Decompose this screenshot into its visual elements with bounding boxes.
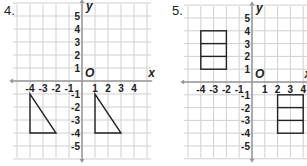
coordinate-grid: -4-3-2-1123454321-1-2-3-4-5Oyx: [0, 0, 155, 166]
origin-label: O: [255, 67, 265, 81]
x-tick-label: -2: [52, 83, 61, 94]
y-tick-label: 1: [74, 63, 80, 74]
x-tick-label: -3: [39, 83, 48, 94]
x-tick-label: 4: [300, 84, 306, 95]
coordinate-grid: -4-3-2-1123454321-1-2-3-4-5Oyx: [155, 0, 307, 166]
y-tick-label: -5: [241, 141, 250, 152]
x-tick-label: 4: [131, 83, 137, 94]
y-tick-label: -4: [241, 128, 250, 139]
origin-label: O: [85, 66, 95, 80]
y-tick-label: -1: [71, 89, 80, 100]
y-tick-label: 2: [244, 51, 250, 62]
y-tick-label: -5: [71, 141, 80, 152]
y-tick-label: 5: [74, 11, 80, 22]
x-tick-label: -2: [222, 84, 231, 95]
x-tick-label: 3: [118, 83, 124, 94]
x-tick-label: 1: [262, 84, 268, 95]
y-tick-label: 5: [244, 13, 250, 24]
y-tick-label: -1: [241, 90, 250, 101]
y-axis-arrow-icon: [80, 0, 85, 3]
y-tick-label: -4: [71, 128, 80, 139]
y-tick-label: 3: [74, 37, 80, 48]
y-tick-label: -2: [71, 102, 80, 113]
x-tick-label: -4: [26, 83, 35, 94]
y-tick-label: 3: [244, 39, 250, 50]
x-axis-label: x: [147, 66, 155, 80]
y-axis-arrow-icon: [80, 159, 85, 163]
y-tick-label: 2: [74, 50, 80, 61]
y-tick-label: 1: [244, 64, 250, 75]
x-axis-arrow-icon: [180, 80, 184, 85]
y-tick-label: -3: [71, 115, 80, 126]
problem-5: 5. -4-3-2-1123454321-1-2-3-4-5Oyx: [155, 0, 307, 166]
y-axis-arrow-icon: [250, 159, 255, 163]
y-tick-label: -3: [241, 115, 250, 126]
problem-4: 4. -4-3-2-1123454321-1-2-3-4-5Oyx: [0, 0, 155, 166]
y-tick-label: 4: [74, 24, 80, 35]
x-tick-label: 2: [105, 83, 111, 94]
y-tick-label: 4: [244, 26, 250, 37]
y-axis-label: y: [255, 1, 264, 15]
x-tick-label: 3: [288, 84, 294, 95]
x-tick-label: 1: [92, 83, 98, 94]
x-axis-label: x: [303, 67, 307, 81]
y-tick-label: -2: [241, 103, 250, 114]
y-axis-arrow-icon: [250, 1, 255, 5]
x-tick-label: 2: [275, 84, 281, 95]
y-axis-label: y: [85, 0, 94, 13]
x-tick-label: -4: [196, 84, 205, 95]
x-tick-label: -3: [209, 84, 218, 95]
x-axis-arrow-icon: [9, 79, 13, 84]
